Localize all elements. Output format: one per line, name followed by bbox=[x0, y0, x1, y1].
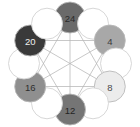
node-ring-diagram: 2448121620 bbox=[0, 0, 140, 127]
graph-canvas: 2448121620 bbox=[0, 0, 140, 127]
graph-node-empty[interactable] bbox=[32, 8, 63, 39]
node-empty-11-circle[interactable] bbox=[32, 8, 63, 39]
